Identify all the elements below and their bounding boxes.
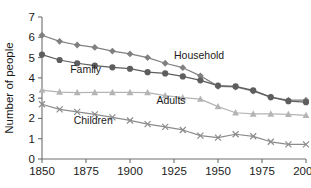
marker-family-0	[39, 51, 45, 57]
y-tick-label-1: 1	[29, 133, 35, 145]
x-tick-label-1875: 1875	[73, 165, 99, 177]
x-tick-label-1975: 1975	[249, 165, 275, 177]
y-tick-label-6: 6	[29, 31, 35, 43]
series-label-children: Children	[74, 114, 113, 126]
y-tick-label-4: 4	[29, 72, 36, 84]
y-tick-label-7: 7	[29, 11, 35, 23]
y-tick-label-3: 3	[29, 92, 35, 104]
marker-household-1	[56, 38, 63, 45]
marker-family-9	[197, 77, 203, 83]
marker-family-12	[250, 87, 256, 93]
marker-household-2	[74, 42, 81, 49]
x-tick-label-1950: 1950	[205, 165, 231, 177]
series-label-adults: Adults	[156, 94, 185, 106]
axis-spine	[42, 17, 306, 159]
marker-family-1	[57, 57, 63, 63]
marker-household-3	[91, 44, 98, 51]
x-tick-label-1900: 1900	[117, 165, 143, 177]
marker-household-7	[162, 60, 169, 67]
marker-household-6	[144, 54, 151, 61]
chart-figure: 012345671850187519001925195019752000Numb…	[0, 0, 311, 188]
marker-household-4	[109, 48, 116, 55]
marker-family-10	[215, 82, 221, 88]
x-tick-label-1925: 1925	[161, 165, 187, 177]
series-label-family: Family	[70, 63, 102, 75]
x-tick-label-2000: 2000	[293, 165, 311, 177]
marker-family-5	[127, 66, 133, 72]
marker-family-13	[268, 94, 274, 100]
y-tick-label-0: 0	[29, 153, 35, 165]
marker-family-11	[233, 83, 239, 89]
marker-family-7	[162, 70, 168, 76]
y-tick-label-2: 2	[29, 112, 35, 124]
marker-adults-0	[39, 86, 46, 92]
marker-family-14	[285, 98, 291, 104]
series-label-household: Household	[174, 49, 224, 61]
marker-household-5	[127, 51, 134, 58]
x-tick-label-1850: 1850	[29, 165, 55, 177]
y-axis-title: Number of people	[3, 42, 15, 133]
marker-family-6	[145, 69, 151, 75]
line-chart: 012345671850187519001925195019752000Numb…	[0, 0, 311, 188]
marker-household-8	[179, 64, 186, 71]
marker-family-15	[303, 99, 309, 105]
marker-family-4	[109, 64, 115, 70]
marker-family-8	[180, 73, 186, 79]
y-tick-label-5: 5	[29, 52, 35, 64]
